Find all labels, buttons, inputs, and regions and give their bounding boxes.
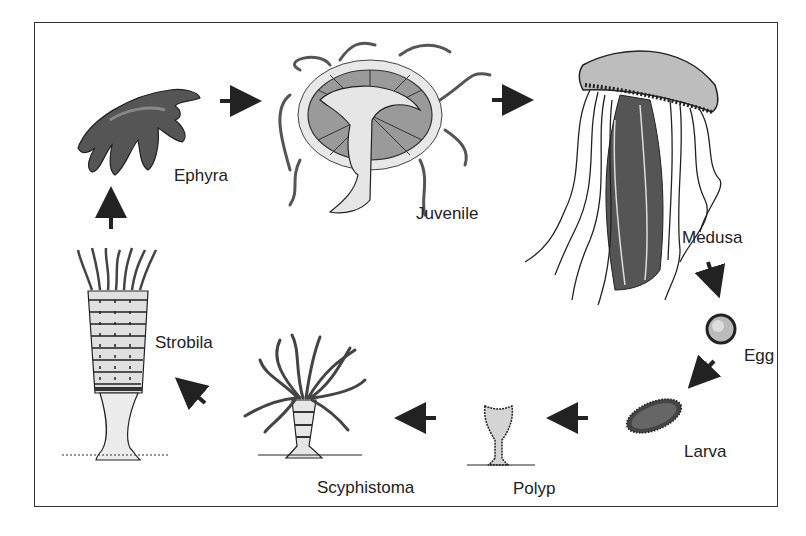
arrow-egg-to-larva bbox=[696, 361, 714, 380]
label-ephyra: Ephyra bbox=[174, 166, 228, 186]
label-polyp: Polyp bbox=[513, 479, 556, 499]
larva-illustration bbox=[622, 392, 686, 440]
arrow-scyphistoma-to-strobila bbox=[184, 385, 205, 403]
label-scyphistoma: Scyphistoma bbox=[317, 478, 414, 498]
medusa-illustration bbox=[525, 51, 721, 305]
ephyra-illustration bbox=[78, 89, 200, 175]
label-medusa: Medusa bbox=[682, 228, 742, 248]
arrow-medusa-to-egg bbox=[708, 262, 716, 287]
label-larva: Larva bbox=[684, 442, 727, 462]
polyp-illustration bbox=[467, 406, 535, 465]
egg-illustration bbox=[707, 315, 735, 343]
scyphistoma-illustration bbox=[245, 335, 365, 458]
label-juvenile: Juvenile bbox=[416, 204, 478, 224]
juvenile-illustration bbox=[280, 43, 490, 215]
label-egg: Egg bbox=[744, 346, 774, 366]
strobila-illustration bbox=[62, 248, 168, 460]
label-strobila: Strobila bbox=[155, 333, 213, 353]
